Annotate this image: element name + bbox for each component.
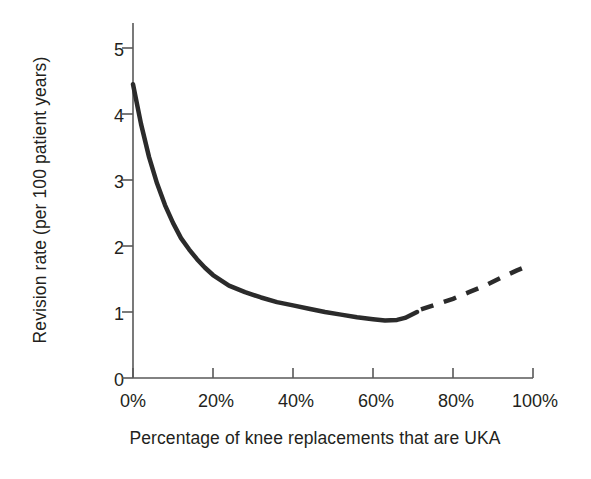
data-line-observed xyxy=(133,84,417,320)
chart-figure: Revision rate (per 100 patient years) Pe… xyxy=(0,0,591,479)
plot-area xyxy=(0,0,591,479)
data-line-extrapolated xyxy=(421,267,525,309)
